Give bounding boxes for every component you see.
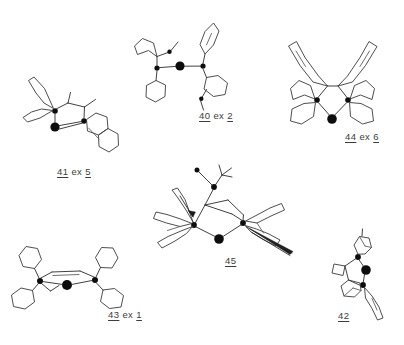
structure-ex-number-44: 6 bbox=[373, 131, 379, 142]
structure-ex-number-41: 5 bbox=[85, 166, 91, 177]
structure-label-42: 42 bbox=[338, 310, 352, 321]
structure-label-43: 43ex 1 bbox=[108, 309, 142, 320]
structure-label-44: 44ex 6 bbox=[345, 131, 379, 142]
structure-label-40: 40ex 2 bbox=[199, 110, 233, 121]
structure-number-44: 44 bbox=[345, 131, 356, 142]
structure-label-41: 41ex 5 bbox=[57, 166, 91, 177]
structure-number-40: 40 bbox=[199, 110, 210, 121]
structure-number-43: 43 bbox=[108, 309, 119, 320]
structure-label-45: 45 bbox=[225, 255, 239, 266]
structure-ex-prefix-42 bbox=[349, 310, 352, 321]
structure-ex-prefix-40: ex bbox=[210, 110, 224, 121]
structure-ex-number-40: 2 bbox=[227, 110, 233, 121]
structure-number-42: 42 bbox=[338, 310, 349, 321]
structure-ex-prefix-44: ex bbox=[356, 131, 370, 142]
structure-ex-number-43: 1 bbox=[136, 309, 142, 320]
structure-number-45: 45 bbox=[225, 255, 236, 266]
structure-ex-prefix-43: ex bbox=[119, 309, 133, 320]
label-layer: 40ex 2 41ex 5 42 43ex 1 44ex 6 45 bbox=[0, 0, 404, 345]
structure-number-41: 41 bbox=[57, 166, 68, 177]
structure-ex-prefix-41: ex bbox=[68, 166, 82, 177]
structure-plate: 40ex 2 41ex 5 42 43ex 1 44ex 6 45 bbox=[0, 0, 404, 345]
structure-ex-prefix-45 bbox=[236, 255, 239, 266]
